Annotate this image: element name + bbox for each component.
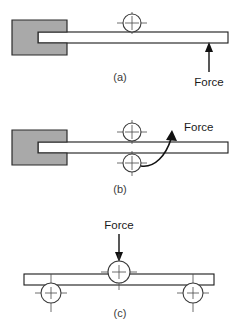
force-label-b: Force bbox=[184, 121, 213, 133]
force-arrow-a bbox=[205, 42, 213, 72]
bending-test-figure: Force (a) bbox=[0, 0, 244, 328]
panel-a: Force (a) bbox=[12, 12, 228, 88]
roller-b-bottom bbox=[117, 151, 147, 176]
force-label-a: Force bbox=[194, 76, 223, 88]
roller-a-top bbox=[117, 12, 147, 34]
panel-caption-b: (b) bbox=[113, 183, 126, 195]
beam-b bbox=[38, 142, 228, 153]
force-label-c: Force bbox=[104, 219, 133, 231]
panel-b: Force (b) bbox=[12, 120, 228, 195]
panel-c: Force bbox=[24, 219, 214, 319]
beam-a bbox=[38, 32, 228, 43]
panel-caption-a: (a) bbox=[113, 71, 126, 83]
roller-b-top bbox=[117, 120, 147, 144]
panel-caption-c: (c) bbox=[114, 307, 127, 319]
